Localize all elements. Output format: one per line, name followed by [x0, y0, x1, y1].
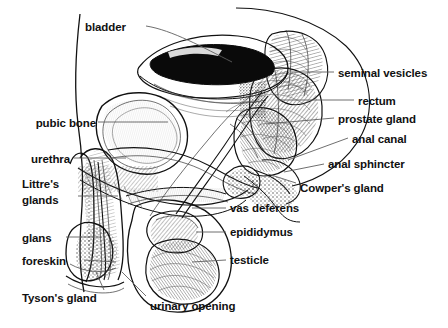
label-epididymus: epididymus [230, 225, 293, 240]
label-rectum: rectum [358, 94, 396, 109]
leader-urinary-opening [122, 272, 146, 296]
label-bladder: bladder [85, 20, 126, 35]
label-anal-sphincter: anal sphincter [328, 157, 405, 172]
label-anal-canal: anal canal [352, 132, 407, 147]
label-seminal-vesicles: seminal vesicles [338, 66, 427, 81]
label-vas-deferens: vas deferens [230, 201, 299, 216]
diagram-canvas: bladder pubic bone urethra Littre's glan… [0, 0, 448, 328]
label-tysons-gland: Tyson's gland [22, 291, 97, 306]
label-foreskin: foreskin [22, 254, 66, 269]
pubic-bone-structure [96, 93, 192, 176]
label-urethra: urethra [0, 152, 70, 167]
label-cowpers-gland: Cowper's gland [300, 181, 384, 196]
label-pubic-bone: pubic bone [0, 116, 96, 131]
label-urinary-opening: urinary opening [150, 299, 235, 314]
label-littres-glands-line2: glands [22, 193, 58, 208]
label-littres-glands-line1: Littre's [22, 177, 59, 192]
label-testicle: testicle [230, 253, 269, 268]
label-prostate-gland: prostate gland [338, 112, 416, 127]
label-glans: glans [22, 231, 52, 246]
